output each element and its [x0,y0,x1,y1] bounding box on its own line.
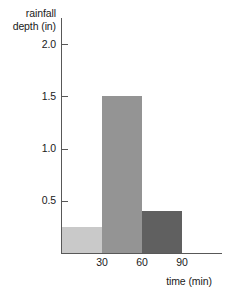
y-axis-title-line-2: depth (in) [0,20,56,33]
y-tick-label-0: 0.5 [14,195,56,206]
x-tick-label-2: 90 [167,256,197,268]
y-tick-label-2: 1.5 [14,91,56,102]
y-axis-title: rainfall depth (in) [0,7,56,33]
x-tick-label-1: 60 [127,256,157,268]
y-axis-title-line-1: rainfall [0,7,56,20]
x-axis-title: time (min) [140,275,238,287]
x-tick-label-0: 30 [87,256,117,268]
bar-30-60min [102,96,142,253]
bar-60-90min [142,211,182,253]
y-tick-label-1: 1.0 [14,143,56,154]
y-tick-label-3: 2.0 [14,39,56,50]
bar-0-30min [62,227,102,253]
x-axis-line [61,253,222,254]
rainfall-hyetograph-chart: rainfall depth (in) 0.5 1.0 1.5 2.0 30 6… [0,0,245,301]
plot-area [62,18,202,253]
